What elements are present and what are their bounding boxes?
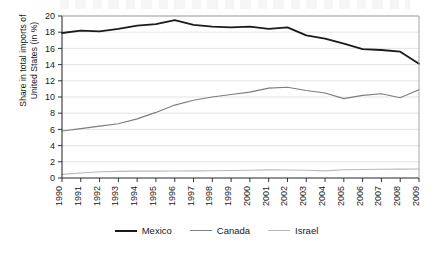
svg-text:8: 8: [50, 108, 55, 118]
svg-text:1998: 1998: [204, 186, 214, 206]
svg-text:20: 20: [45, 11, 55, 21]
svg-text:2005: 2005: [336, 186, 346, 206]
svg-text:2002: 2002: [279, 186, 289, 206]
svg-text:16: 16: [45, 44, 55, 54]
svg-text:2007: 2007: [373, 186, 383, 206]
legend-item-israel[interactable]: Israel: [268, 225, 318, 236]
svg-text:1997: 1997: [186, 186, 196, 206]
svg-text:1990: 1990: [54, 186, 64, 206]
svg-text:2: 2: [50, 157, 55, 167]
legend-item-mexico[interactable]: Mexico: [115, 225, 172, 236]
svg-text:2009: 2009: [411, 186, 421, 206]
svg-text:1994: 1994: [129, 186, 139, 206]
legend-swatch-israel: [268, 230, 290, 231]
svg-text:2001: 2001: [261, 186, 271, 206]
svg-text:2006: 2006: [355, 186, 365, 206]
svg-text:1991: 1991: [73, 186, 83, 206]
legend-label-canada: Canada: [217, 225, 250, 236]
chart-container: Share in total imports of United States …: [0, 0, 433, 254]
legend-label-mexico: Mexico: [142, 225, 172, 236]
svg-text:12: 12: [45, 76, 55, 86]
svg-text:18: 18: [45, 27, 55, 37]
x-axis-ticks: 1990199119921993199419951996199719981999…: [54, 178, 421, 206]
svg-text:1992: 1992: [92, 186, 102, 206]
svg-text:6: 6: [50, 125, 55, 135]
svg-text:1995: 1995: [148, 186, 158, 206]
svg-text:2003: 2003: [298, 186, 308, 206]
svg-text:2004: 2004: [317, 186, 327, 206]
plot-area: 02468101214161820 1990199119921993199419…: [0, 0, 433, 254]
svg-text:2008: 2008: [392, 186, 402, 206]
legend-swatch-mexico: [115, 230, 137, 232]
svg-text:1999: 1999: [223, 186, 233, 206]
legend-swatch-canada: [190, 230, 212, 231]
svg-text:10: 10: [45, 92, 55, 102]
svg-text:4: 4: [50, 141, 55, 151]
gridlines: [62, 16, 419, 178]
legend-item-canada[interactable]: Canada: [190, 225, 250, 236]
chart-legend: Mexico Canada Israel: [0, 225, 433, 236]
y-axis-ticks: 02468101214161820: [45, 11, 62, 183]
svg-text:1993: 1993: [110, 186, 120, 206]
svg-text:0: 0: [50, 173, 55, 183]
svg-text:14: 14: [45, 60, 55, 70]
svg-text:2000: 2000: [242, 186, 252, 206]
svg-text:1996: 1996: [167, 186, 177, 206]
legend-label-israel: Israel: [295, 225, 318, 236]
